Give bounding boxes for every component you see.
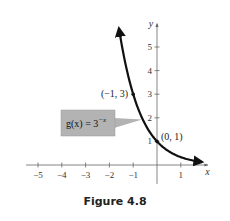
function-label-base: g(x) = 3	[66, 118, 98, 130]
data-point	[131, 92, 135, 96]
x-axis-label: x	[204, 166, 210, 177]
figure: xy −5−4−3−2−1112345 g(x) = 3−x (−1, 3)(0…	[0, 0, 230, 221]
figure-caption: Figure 4.8	[83, 195, 146, 208]
y-tick-label: 4	[148, 66, 153, 76]
y-tick-label: 1	[148, 136, 153, 146]
data-point-label: (0, 1)	[161, 131, 183, 143]
x-tick-label: −4	[57, 170, 67, 180]
y-tick-label: 2	[148, 113, 153, 123]
x-tick-label: −5	[33, 170, 43, 180]
x-tick-label: −1	[128, 170, 138, 180]
x-tick-label: −3	[81, 170, 91, 180]
callout-pointer	[114, 118, 142, 128]
y-tick-label: 3	[148, 89, 153, 99]
y-axis-label: y	[148, 18, 154, 29]
x-tick-label: −2	[105, 170, 115, 180]
function-label-exponent: −x	[98, 116, 107, 124]
x-tick-label: 1	[179, 170, 184, 180]
data-point-label: (−1, 3)	[101, 88, 128, 100]
y-tick-label: 5	[148, 42, 153, 52]
data-point	[155, 140, 159, 144]
function-label-box: g(x) = 3−x	[61, 110, 142, 136]
